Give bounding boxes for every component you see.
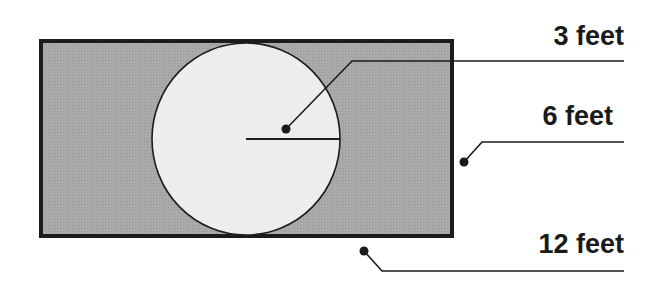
- radius-label: 3 feet: [553, 21, 624, 51]
- width-leader: [460, 142, 625, 167]
- diagram-canvas: 3 feet 6 feet 12 feet: [0, 0, 654, 285]
- width-label: 6 feet: [542, 101, 613, 131]
- length-label: 12 feet: [538, 229, 624, 259]
